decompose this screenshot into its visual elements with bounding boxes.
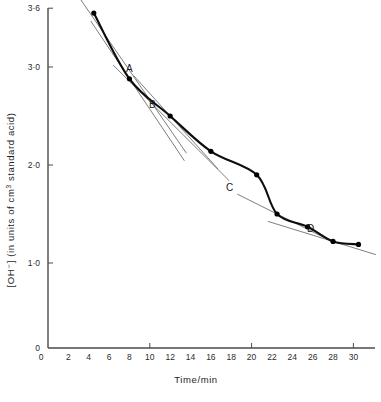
x-tick-label: 24 bbox=[288, 352, 298, 362]
label-point-c: C bbox=[226, 182, 233, 193]
data-point-marker bbox=[330, 239, 335, 244]
data-point-marker bbox=[168, 113, 173, 118]
x-tick-label: 26 bbox=[308, 352, 318, 362]
y-tick-label: 3·0 bbox=[28, 62, 41, 72]
y-title-prefix: [OH⁻] (in units of cm bbox=[5, 189, 16, 288]
y-tick-label: 3·6 bbox=[28, 3, 41, 13]
x-tick-label: 0 bbox=[39, 352, 44, 362]
x-tick-label: 20 bbox=[247, 352, 257, 362]
y-tick-label: 1·0 bbox=[28, 258, 41, 268]
concentration-decay-curve bbox=[94, 13, 359, 244]
x-tick-label: 8 bbox=[127, 352, 132, 362]
y-axis-title: [OH⁻] (in units of cm3 standard acid) bbox=[5, 113, 16, 288]
data-point-marker bbox=[208, 149, 213, 154]
data-point-markers bbox=[91, 11, 361, 247]
data-point-marker bbox=[91, 11, 96, 16]
data-point-marker bbox=[274, 211, 279, 216]
tangent-line-a bbox=[91, 21, 185, 161]
tangent-point-labels: A B C D bbox=[126, 63, 314, 234]
y-tick-label: 2·0 bbox=[28, 160, 41, 170]
label-point-d: D bbox=[307, 223, 314, 234]
plot-canvas: 01·02·03·03·6 02468101214161820222426283… bbox=[0, 0, 381, 402]
data-point-marker bbox=[127, 76, 132, 81]
x-tick-label: 18 bbox=[227, 352, 237, 362]
x-tick-label: 14 bbox=[186, 352, 196, 362]
initial-rate-tangent bbox=[79, 0, 187, 153]
x-tick-label: 30 bbox=[349, 352, 359, 362]
y-title-suffix: standard acid) bbox=[5, 113, 16, 185]
x-tick-label: 28 bbox=[328, 352, 338, 362]
axes-group bbox=[48, 8, 375, 348]
label-point-a: A bbox=[126, 63, 133, 74]
tangent-lines bbox=[91, 21, 376, 255]
x-tick-label: 22 bbox=[267, 352, 277, 362]
x-axis-title: Time/min bbox=[174, 374, 218, 385]
x-axis-ticks: 024681012141618202224262830 bbox=[39, 343, 359, 362]
data-point-marker bbox=[254, 172, 259, 177]
x-tick-label: 10 bbox=[145, 352, 155, 362]
x-tick-label: 4 bbox=[86, 352, 91, 362]
x-tick-label: 2 bbox=[66, 352, 71, 362]
y-axis-ticks: 01·02·03·03·6 bbox=[28, 3, 53, 353]
kinetics-chart-figure: 01·02·03·03·6 02468101214161820222426283… bbox=[0, 0, 381, 402]
secondary-tangent bbox=[113, 65, 229, 181]
tangent-line-d bbox=[268, 221, 376, 254]
x-tick-label: 12 bbox=[165, 352, 175, 362]
x-tick-label: 6 bbox=[107, 352, 112, 362]
data-point-marker bbox=[356, 242, 361, 247]
x-tick-label: 16 bbox=[206, 352, 216, 362]
label-point-b: B bbox=[149, 99, 156, 110]
